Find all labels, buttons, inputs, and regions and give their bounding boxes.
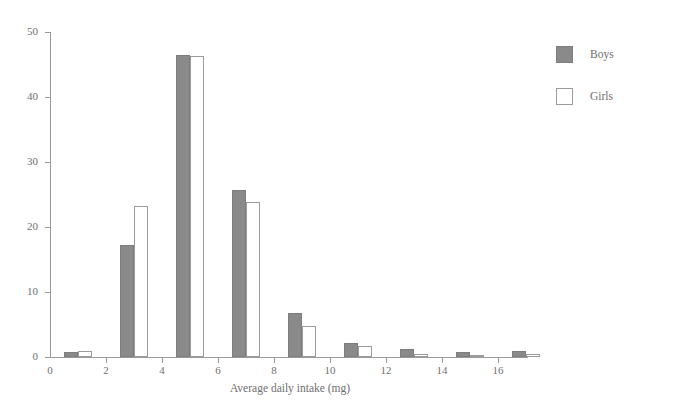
bar-girls-12-13 bbox=[414, 354, 428, 357]
plot-area bbox=[50, 32, 527, 357]
bar-girls-10-11 bbox=[358, 346, 372, 357]
x-tick-mark bbox=[106, 358, 107, 363]
bar-girls-4-5 bbox=[190, 56, 204, 357]
bar-boys-2-3 bbox=[120, 245, 134, 357]
bar-boys-14-15 bbox=[456, 352, 470, 357]
x-axis-title: Average daily intake (mg) bbox=[0, 382, 580, 394]
x-tick-label: 12 bbox=[376, 365, 396, 376]
x-tick-label: 8 bbox=[264, 365, 284, 376]
bar-boys-10-11 bbox=[344, 343, 358, 357]
x-tick-label: 2 bbox=[96, 365, 116, 376]
legend-label-girls: Girls bbox=[590, 90, 613, 103]
x-tick-label: 14 bbox=[432, 365, 452, 376]
bar-girls-6-7 bbox=[246, 202, 260, 357]
x-tick-label: 16 bbox=[488, 365, 508, 376]
bar-girls-0-1 bbox=[78, 351, 92, 357]
bar-boys-6-7 bbox=[232, 190, 246, 357]
y-tick-label: 20 bbox=[8, 221, 38, 232]
x-tick-mark bbox=[162, 358, 163, 363]
x-tick-mark bbox=[442, 358, 443, 363]
x-tick-mark bbox=[386, 358, 387, 363]
bar-boys-4-5 bbox=[176, 55, 190, 357]
x-tick-mark bbox=[330, 358, 331, 363]
y-tick-label: 30 bbox=[8, 156, 38, 167]
bar-girls-8-9 bbox=[302, 326, 316, 357]
x-tick-label: 10 bbox=[320, 365, 340, 376]
bar-boys-8-9 bbox=[288, 313, 302, 357]
x-tick-mark bbox=[498, 358, 499, 363]
bar-boys-0-1 bbox=[64, 352, 78, 357]
y-tick-label: 10 bbox=[8, 286, 38, 297]
legend-swatch-girls bbox=[556, 88, 573, 105]
x-tick-label: 6 bbox=[208, 365, 228, 376]
bar-boys-16-17 bbox=[512, 351, 526, 358]
x-tick-mark bbox=[274, 358, 275, 363]
bar-girls-2-3 bbox=[134, 206, 148, 357]
y-tick-mark bbox=[45, 357, 50, 358]
y-tick-label: 50 bbox=[8, 26, 38, 37]
bar-girls-16-17 bbox=[526, 354, 540, 357]
x-tick-label: 4 bbox=[152, 365, 172, 376]
legend-swatch-boys bbox=[556, 46, 573, 63]
legend-label-boys: Boys bbox=[590, 48, 614, 61]
bar-boys-12-13 bbox=[400, 349, 414, 357]
x-tick-mark bbox=[218, 358, 219, 363]
histogram-chart: 01020304050 0246810121416 Average daily … bbox=[0, 0, 675, 415]
y-tick-label: 40 bbox=[8, 91, 38, 102]
y-tick-label: 0 bbox=[8, 351, 38, 362]
bar-girls-14-15 bbox=[470, 355, 484, 357]
x-tick-label: 0 bbox=[40, 365, 60, 376]
x-axis-line bbox=[50, 357, 528, 358]
